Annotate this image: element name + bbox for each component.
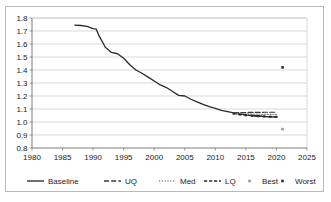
- data-series-layer: [75, 25, 284, 130]
- y-tick-label-1.7: 1.7: [16, 27, 28, 36]
- series-line-uq: [234, 112, 277, 113]
- y-tick-label-1.3: 1.3: [16, 79, 28, 88]
- series-point-lq: [251, 115, 253, 117]
- y-axis-tick-labels: 0.80.91.01.11.21.31.41.51.61.71.8: [16, 14, 32, 153]
- legend-label-uq: UQ: [125, 177, 137, 186]
- legend-item-best[interactable]: Best: [248, 177, 279, 186]
- x-tick-label-1990: 1990: [84, 153, 102, 162]
- y-tick-label-0.8: 0.8: [16, 144, 28, 153]
- legend-item-med[interactable]: Med: [159, 177, 196, 186]
- data-marker-worst: [281, 66, 284, 69]
- y-tick-label-1.4: 1.4: [16, 66, 28, 75]
- legend-label-worst: Worst: [295, 177, 317, 186]
- series-point-lq: [239, 113, 241, 115]
- gridlines: [32, 18, 307, 135]
- x-tick-label-2000: 2000: [145, 153, 163, 162]
- x-tick-label-1985: 1985: [54, 153, 72, 162]
- legend-item-baseline[interactable]: Baseline: [27, 177, 79, 186]
- line-chart: 0.80.91.01.11.21.31.41.51.61.71.8 198019…: [0, 0, 331, 202]
- y-tick-label-1.0: 1.0: [16, 118, 28, 127]
- x-tick-label-2020: 2020: [268, 153, 286, 162]
- chart-legend: BaselineUQMedLQBestWorst: [27, 177, 317, 186]
- y-tick-label-1.8: 1.8: [16, 14, 28, 23]
- legend-marker-best: [248, 180, 251, 183]
- x-axis-tick-labels: 1980198519901995200020052010201520202025: [23, 148, 316, 162]
- legend-label-lq: LQ: [225, 177, 236, 186]
- y-tick-label-1.2: 1.2: [16, 92, 28, 101]
- legend-item-lq[interactable]: LQ: [204, 177, 236, 186]
- legend-label-med: Med: [180, 177, 196, 186]
- y-tick-label-0.9: 0.9: [16, 131, 28, 140]
- legend-item-worst[interactable]: Worst: [281, 177, 316, 186]
- y-tick-label-1.6: 1.6: [16, 40, 28, 49]
- x-tick-label-1995: 1995: [115, 153, 133, 162]
- series-point-lq: [269, 116, 271, 118]
- chart-figure: 0.80.91.01.11.21.31.41.51.61.71.8 198019…: [0, 0, 331, 202]
- x-tick-label-2005: 2005: [176, 153, 194, 162]
- x-tick-label-2015: 2015: [237, 153, 255, 162]
- series-point-lq: [245, 114, 247, 116]
- series-point-lq: [275, 116, 277, 118]
- series-point-lq: [263, 115, 265, 117]
- series-point-lq: [257, 115, 259, 117]
- legend-label-best: Best: [262, 177, 279, 186]
- legend-item-uq[interactable]: UQ: [104, 177, 137, 186]
- data-marker-best: [281, 128, 284, 131]
- legend-label-baseline: Baseline: [48, 177, 79, 186]
- x-tick-label-2010: 2010: [206, 153, 224, 162]
- legend-marker-worst: [281, 180, 284, 183]
- y-tick-label-1.5: 1.5: [16, 53, 28, 62]
- y-tick-label-1.1: 1.1: [16, 105, 28, 114]
- x-tick-label-2025: 2025: [298, 153, 316, 162]
- series-point-lq: [233, 112, 235, 114]
- x-tick-label-1980: 1980: [23, 153, 41, 162]
- series-line-baseline: [75, 25, 277, 117]
